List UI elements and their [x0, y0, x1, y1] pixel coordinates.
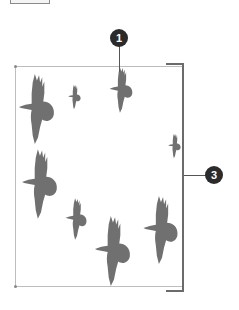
callout-3-number: 3 [211, 169, 217, 181]
callout-3-badge: 3 [205, 166, 223, 184]
callout-1-leader-line [119, 46, 120, 72]
callout-3-leader-line [184, 175, 206, 176]
bird-icon [108, 66, 136, 114]
frame-corner-marker [14, 65, 17, 68]
callout-1-badge: 1 [110, 29, 128, 47]
bird-icon [15, 72, 61, 146]
bird-icon [63, 197, 91, 241]
group-bracket [166, 63, 184, 292]
top-partial-box [10, 0, 50, 4]
bird-icon [20, 147, 62, 221]
bird-icon [92, 214, 136, 288]
callout-1-number: 1 [116, 32, 122, 44]
bird-icon [66, 84, 84, 110]
frame-corner-marker [14, 285, 17, 288]
